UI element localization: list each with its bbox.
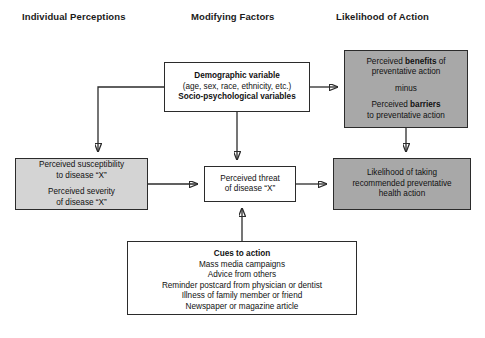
benefits-line-4-prefix: Perceived bbox=[371, 100, 410, 109]
benefits-line-1-suffix: of bbox=[436, 57, 445, 66]
likelihood-line-3: health action bbox=[379, 189, 425, 200]
benefits-line-4: Perceived barriers bbox=[371, 100, 440, 111]
benefits-line-5: to preventative action bbox=[367, 111, 445, 122]
demographic-line-2: (age, sex, race, ethnicity, etc.) bbox=[183, 82, 292, 93]
demographic-line-3: Socio-psychological variables bbox=[178, 92, 295, 103]
column-header-modifying-factors: Modifying Factors bbox=[191, 11, 275, 22]
column-header-individual-perceptions: Individual Perceptions bbox=[22, 11, 126, 22]
perceptions-line-1: Perceived susceptibility bbox=[39, 160, 124, 171]
node-likelihood-of-taking-action: Likelihood of taking recommended prevent… bbox=[333, 158, 471, 210]
node-perceived-threat: Perceived threat of disease “X” bbox=[204, 166, 296, 202]
benefits-line-1-prefix: Perceived bbox=[366, 57, 405, 66]
benefits-line-2: preventative action bbox=[372, 67, 441, 78]
perceptions-line-3: Perceived severity bbox=[48, 187, 115, 198]
threat-line-1: Perceived threat bbox=[220, 174, 280, 185]
benefits-keyword-barriers: barriers bbox=[410, 100, 441, 109]
column-header-likelihood-of-action: Likelihood of Action bbox=[336, 11, 429, 22]
demographic-line-1: Demographic variable bbox=[194, 71, 280, 82]
health-belief-model-diagram: Individual Perceptions Modifying Factors… bbox=[0, 0, 485, 338]
node-perceived-benefits-minus-barriers: Perceived benefits of preventative actio… bbox=[344, 50, 468, 128]
cues-item-5: Newspaper or magazine article bbox=[186, 302, 299, 313]
benefits-keyword-benefits: benefits bbox=[405, 57, 436, 66]
node-cues-to-action: Cues to action Mass media campaigns Advi… bbox=[127, 241, 357, 315]
cues-title: Cues to action bbox=[214, 249, 270, 260]
benefits-line-1: Perceived benefits of bbox=[366, 57, 445, 68]
cues-item-2: Advice from others bbox=[208, 270, 276, 281]
cues-item-1: Mass media campaigns bbox=[199, 260, 285, 271]
benefits-line-3-minus: minus bbox=[395, 84, 417, 95]
threat-line-2: of disease “X” bbox=[225, 184, 276, 195]
perceptions-line-4: of disease “X” bbox=[56, 198, 107, 209]
node-perceived-susceptibility-severity: Perceived susceptibility to disease “X” … bbox=[15, 158, 148, 210]
cues-item-4: Illness of family member or friend bbox=[182, 291, 303, 302]
node-demographic-variable: Demographic variable (age, sex, race, et… bbox=[164, 62, 310, 112]
cues-item-3: Reminder postcard from physician or dent… bbox=[162, 281, 322, 292]
likelihood-line-1: Likelihood of taking bbox=[367, 168, 437, 179]
wire-demographic-to-perceptions bbox=[98, 87, 164, 152]
perceptions-line-2: to disease “X” bbox=[56, 171, 107, 182]
likelihood-line-2: recommended preventative bbox=[352, 179, 451, 190]
